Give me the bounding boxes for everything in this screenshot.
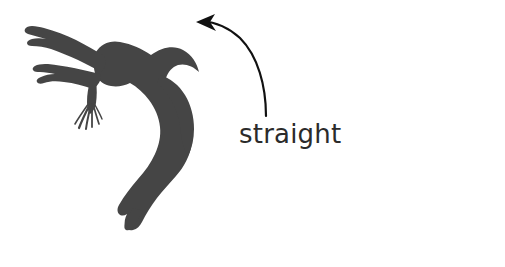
- figure-root: straight: [0, 0, 505, 267]
- annotation-label: straight: [239, 120, 341, 149]
